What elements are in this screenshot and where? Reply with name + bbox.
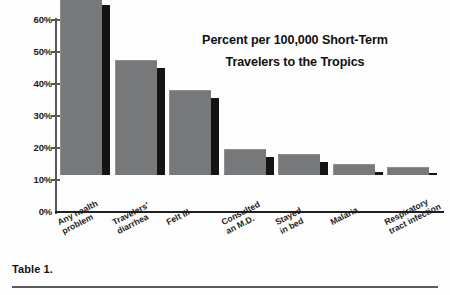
bar-shadow <box>429 173 437 175</box>
bar-face <box>278 154 320 175</box>
bar-travelers-diarrhea <box>115 60 165 175</box>
chart-title-line-2: Travelers to the Tropics <box>150 52 440 74</box>
y-tick-label: 10% <box>34 175 52 185</box>
bar-felt-ill <box>169 90 219 175</box>
x-axis-label: Respiratorytract infection <box>383 193 442 236</box>
bar-face <box>387 167 429 175</box>
y-tick-label: 0% <box>39 207 52 217</box>
y-tick-label: 30% <box>34 111 52 121</box>
y-tick-0pct: 0% <box>0 207 52 217</box>
bar-shadow <box>375 172 383 175</box>
bar-stayed-in-bed <box>278 154 328 175</box>
y-tick-mark <box>51 83 60 85</box>
y-tick-mark <box>51 19 60 21</box>
bar-shadow <box>320 162 328 175</box>
figure-page: 60%50%40%30%20%10%0% Any healthproblemTr… <box>0 0 450 295</box>
chart-title: Percent per 100,000 Short-TermTravelers … <box>150 30 440 73</box>
bar-any-health-problem <box>60 0 110 175</box>
y-tick-mark <box>51 179 60 181</box>
y-tick-mark <box>51 147 60 149</box>
y-tick-label: 50% <box>34 47 52 57</box>
table-caption: Table 1. <box>12 263 53 275</box>
x-axis-label: Travelers'diarrhea <box>111 201 155 236</box>
y-tick-label: 40% <box>34 79 52 89</box>
y-tick-label: 20% <box>34 143 52 153</box>
bar-malaria <box>333 164 383 175</box>
bar-face <box>60 0 102 175</box>
y-tick-mark <box>51 51 60 53</box>
x-axis-label: Malaria <box>329 206 360 228</box>
bar-face <box>224 149 266 175</box>
y-tick-30pct: 30% <box>0 111 52 121</box>
y-tick-10pct: 10% <box>0 175 52 185</box>
x-axis-label-line: Malaria <box>329 206 360 228</box>
bar-face <box>115 60 157 175</box>
y-tick-label: 60% <box>34 15 52 25</box>
y-tick-mark <box>51 115 60 117</box>
y-tick-60pct: 60% <box>0 15 52 25</box>
bar-face <box>333 164 375 175</box>
x-axis-label: Any healthproblem <box>56 199 104 236</box>
y-tick-20pct: 20% <box>0 143 52 153</box>
x-axis-label: Consultedan M.D. <box>220 200 266 236</box>
bar-face <box>169 90 211 175</box>
y-tick-40pct: 40% <box>0 79 52 89</box>
bar-shadow <box>102 5 110 175</box>
chart-title-line-1: Percent per 100,000 Short-Term <box>150 30 440 52</box>
bar-shadow <box>266 157 274 175</box>
horizontal-rule <box>12 286 438 288</box>
bar-respiratory-tract-infection <box>387 167 437 175</box>
bar-consulted-an-m-d <box>224 149 274 175</box>
bar-shadow <box>157 68 165 175</box>
y-tick-50pct: 50% <box>0 47 52 57</box>
bar-chart: 60%50%40%30%20%10%0% Any healthproblemTr… <box>0 0 450 258</box>
bar-shadow <box>211 98 219 175</box>
